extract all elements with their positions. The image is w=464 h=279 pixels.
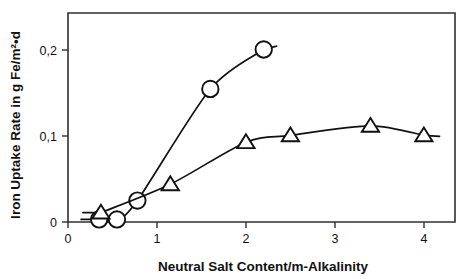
x-tick-label-0: 0 xyxy=(65,232,72,246)
data-point-triangle xyxy=(162,176,179,190)
series-curve xyxy=(99,49,264,220)
y-axis-title: Iron Uptake Rate in g Fe/m²•d xyxy=(8,31,23,219)
data-point-triangle xyxy=(362,118,379,132)
x-tick-label-4: 4 xyxy=(421,232,428,246)
y-axis-tick-labels: 0 0,1 0,2 xyxy=(40,44,57,230)
data-point-triangle xyxy=(237,134,254,148)
data-series-layer xyxy=(81,41,439,227)
y-axis-ticks xyxy=(62,50,68,222)
x-axis-tick-labels: 0 1 2 3 4 xyxy=(65,232,428,246)
y-tick-label-0: 0 xyxy=(50,216,57,230)
y-tick-label-01: 0,1 xyxy=(40,130,57,144)
x-tick-label-3: 3 xyxy=(332,232,339,246)
series-curve xyxy=(101,126,424,213)
x-tick-label-1: 1 xyxy=(154,232,161,246)
series-circles xyxy=(81,41,276,227)
x-axis-title: Neutral Salt Content/m-Alkalinity xyxy=(158,259,369,274)
data-point-circle xyxy=(202,81,218,97)
data-point-circle xyxy=(256,41,272,57)
x-tick-label-2: 2 xyxy=(243,232,250,246)
chart-page: 0 0,1 0,2 0 1 2 3 4 Neutral Salt Content… xyxy=(0,0,464,279)
y-tick-label-02: 0,2 xyxy=(40,44,57,58)
iron-uptake-rate-chart: 0 0,1 0,2 0 1 2 3 4 Neutral Salt Content… xyxy=(0,0,464,279)
